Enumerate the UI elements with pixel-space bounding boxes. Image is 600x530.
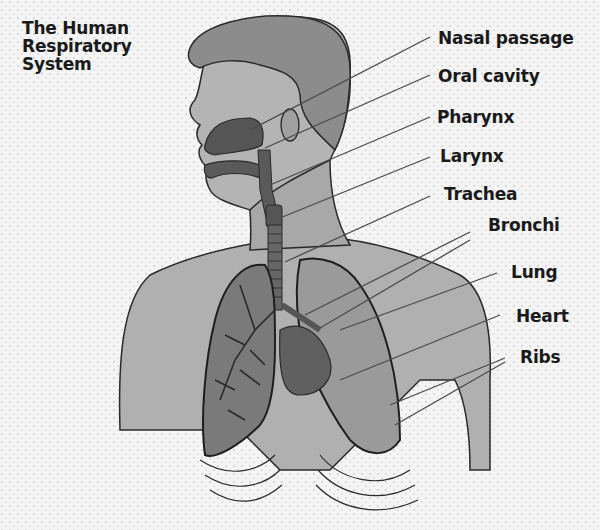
label-heart: Heart — [516, 306, 569, 326]
label-nasal-passage: Nasal passage — [438, 28, 573, 48]
label-lung: Lung — [511, 262, 557, 282]
label-ribs: Ribs — [520, 347, 560, 367]
larynx — [266, 205, 282, 227]
label-oral-cavity: Oral cavity — [438, 66, 540, 86]
label-pharynx: Pharynx — [437, 107, 514, 127]
label-larynx: Larynx — [440, 146, 504, 166]
label-bronchi: Bronchi — [488, 215, 560, 235]
ear-shape — [281, 109, 299, 141]
label-trachea: Trachea — [444, 184, 517, 204]
